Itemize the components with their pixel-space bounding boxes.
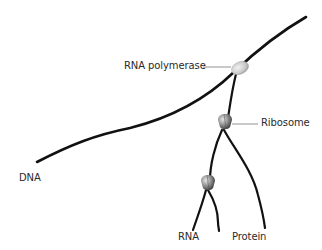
rna-strand-upper <box>228 74 236 118</box>
protein-chain-short <box>208 190 219 231</box>
ribosome-icon <box>218 114 232 129</box>
rna-strand-middle <box>210 130 222 180</box>
ribosome-label: Ribosome <box>261 117 310 128</box>
protein-label: Protein <box>232 231 266 242</box>
dna-label: DNA <box>19 172 41 183</box>
dna-strand <box>37 17 306 162</box>
ribosome-icon-2 <box>201 175 215 190</box>
rna-polymerase-label: RNA polymerase <box>124 60 206 71</box>
rna-label: RNA <box>178 231 199 242</box>
rna-strand-end <box>193 190 206 230</box>
protein-chain-long <box>224 130 265 228</box>
